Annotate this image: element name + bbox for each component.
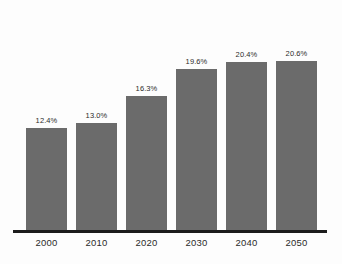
bar-value-label: 16.3% [136,84,158,93]
bar-group: 12.4% [26,0,67,230]
x-axis-tick-labels: 2000 2010 2020 2030 2040 2050 [13,236,327,256]
bar[interactable] [276,61,317,230]
bar-group: 13.0% [76,0,117,230]
bar[interactable] [226,62,267,230]
bar[interactable] [176,69,217,230]
bar-group: 19.6% [176,0,217,230]
x-axis-line [13,230,327,233]
x-tick-label: 2010 [76,236,117,250]
bar[interactable] [126,96,167,230]
x-tick-label: 2000 [26,236,67,250]
x-tick-label: 2040 [226,236,267,250]
bar[interactable] [76,123,117,230]
x-tick-label: 2020 [126,236,167,250]
bar-group: 20.6% [276,0,317,230]
bar-value-label: 19.6% [186,57,208,66]
bar-value-label: 12.4% [36,116,58,125]
bar-group: 16.3% [126,0,167,230]
bar-chart: 12.4% 13.0% 16.3% 19.6% 20.4% 20.6% 2000… [0,0,342,264]
bar-group: 20.4% [226,0,267,230]
x-tick-label: 2030 [176,236,217,250]
bar-value-label: 20.4% [236,50,258,59]
x-tick-label: 2050 [276,236,317,250]
plot-area: 12.4% 13.0% 16.3% 19.6% 20.4% 20.6% [13,0,327,230]
bar-value-label: 20.6% [286,49,308,58]
bar-value-label: 13.0% [86,111,108,120]
bar[interactable] [26,128,67,230]
